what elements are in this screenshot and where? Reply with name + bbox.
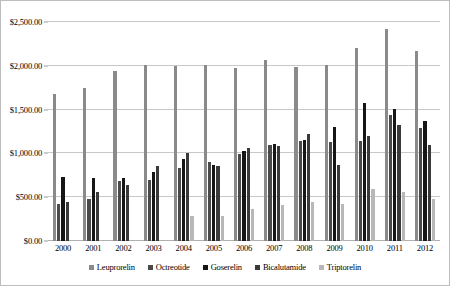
bar <box>363 103 366 241</box>
bar-group <box>319 22 349 241</box>
bar <box>204 65 207 241</box>
legend-label: Goserelin <box>211 262 242 272</box>
plot-area <box>48 22 440 241</box>
bar <box>87 199 90 241</box>
y-axis-tick <box>44 65 48 66</box>
bar-group <box>350 22 380 241</box>
bar <box>268 145 271 241</box>
bar-group <box>138 22 168 241</box>
legend-swatch-icon <box>255 265 260 270</box>
y-axis-tick-label: $2,000.00 <box>10 61 42 71</box>
x-axis-tick-label: 2011 <box>380 243 410 257</box>
y-axis-tick-label: $0.00 <box>24 236 42 246</box>
bar <box>96 192 99 241</box>
bar-group <box>229 22 259 241</box>
bar <box>57 204 60 241</box>
legend-swatch-icon <box>203 265 208 270</box>
bar <box>325 65 328 241</box>
bar <box>144 65 147 241</box>
y-axis-tick-label: $500.00 <box>16 192 42 202</box>
y-axis-tick-label: $1,000.00 <box>10 148 42 158</box>
bar <box>337 165 340 241</box>
x-axis-tick-label: 2004 <box>169 243 199 257</box>
legend-swatch-icon <box>89 265 94 270</box>
bar <box>242 151 245 241</box>
bar <box>182 159 185 241</box>
bar-group <box>199 22 229 241</box>
bar <box>385 29 388 241</box>
bar <box>216 166 219 241</box>
bar-groups <box>48 22 440 241</box>
bar <box>423 121 426 241</box>
bar <box>329 142 332 241</box>
x-axis-tick-label: 2008 <box>289 243 319 257</box>
legend-swatch-icon <box>319 265 324 270</box>
bar <box>178 168 181 241</box>
bar <box>122 178 125 241</box>
bar <box>148 180 151 241</box>
y-axis-tick-label: $2,500.00 <box>10 17 42 27</box>
x-axis-tick-label: 2005 <box>199 243 229 257</box>
legend-item[interactable]: Bicalutamide <box>255 262 306 272</box>
legend-item[interactable]: Leuprorelin <box>89 262 135 272</box>
bar <box>397 125 400 242</box>
bar <box>294 67 297 241</box>
x-axis-tick-label: 2000 <box>48 243 78 257</box>
bar <box>83 88 86 241</box>
legend-item[interactable]: Triptorelin <box>319 262 361 272</box>
y-axis-labels: $0.00$500.00$1,000.00$1,500.00$2,000.00$… <box>0 0 46 241</box>
y-axis-tick <box>44 197 48 198</box>
legend-item[interactable]: Goserelin <box>203 262 242 272</box>
bar-chart: $0.00$500.00$1,000.00$1,500.00$2,000.00$… <box>0 0 450 286</box>
bar <box>359 141 362 241</box>
bar <box>174 66 177 241</box>
bar <box>126 185 129 241</box>
bar-group <box>78 22 108 241</box>
bar <box>208 162 211 241</box>
legend-label: Triptorelin <box>327 262 361 272</box>
bar-group <box>48 22 78 241</box>
bar <box>66 202 69 241</box>
bar <box>238 154 241 241</box>
bar <box>152 172 155 241</box>
bar <box>221 216 224 241</box>
bar-group <box>169 22 199 241</box>
legend-label: Leuprorelin <box>97 262 135 272</box>
bar <box>264 60 267 241</box>
bar <box>92 178 95 241</box>
bar <box>341 204 344 241</box>
bar <box>402 192 405 241</box>
x-axis-tick-label: 2002 <box>108 243 138 257</box>
bar <box>303 140 306 241</box>
x-axis-tick-label: 2012 <box>410 243 440 257</box>
bar-group <box>380 22 410 241</box>
bar <box>307 134 310 241</box>
bar <box>247 148 250 241</box>
bar <box>367 136 370 241</box>
y-axis-tick <box>44 109 48 110</box>
chart-legend: LeuprorelinOctreotideGoserelinBicalutami… <box>0 262 450 272</box>
bar <box>432 199 435 241</box>
bar <box>190 216 193 241</box>
bar <box>355 48 358 241</box>
bar-group <box>289 22 319 241</box>
bar <box>53 94 56 241</box>
bar <box>156 166 159 241</box>
bar <box>311 202 314 241</box>
bar <box>389 115 392 241</box>
x-axis-tick-label: 2003 <box>138 243 168 257</box>
x-axis-labels: 2000200120022003200420052006200720082009… <box>48 243 440 257</box>
legend-item[interactable]: Octreotide <box>148 262 190 272</box>
y-axis-tick-label: $1,500.00 <box>10 105 42 115</box>
bar <box>186 153 189 241</box>
bar-group <box>259 22 289 241</box>
bar <box>234 68 237 241</box>
bar <box>299 141 302 241</box>
legend-label: Octreotide <box>156 262 190 272</box>
x-axis-tick-label: 2007 <box>259 243 289 257</box>
bar <box>277 146 280 241</box>
x-axis-tick-label: 2009 <box>319 243 349 257</box>
y-axis-tick <box>44 241 48 242</box>
bar <box>281 205 284 241</box>
x-axis-tick-label: 2010 <box>350 243 380 257</box>
